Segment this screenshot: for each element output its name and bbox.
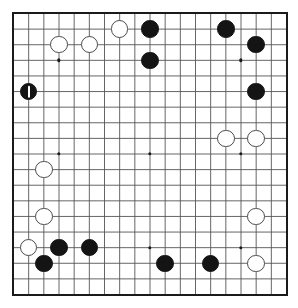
stone-black[interactable] [141,52,158,69]
stone-black[interactable] [217,20,234,37]
stone-layer[interactable] [12,12,288,296]
star-point [239,246,242,249]
stone-black[interactable] [156,255,173,272]
stone-white[interactable] [35,161,52,178]
star-point [57,152,60,155]
last-move-marker [28,85,30,98]
stone-white[interactable] [35,208,52,225]
stone-white[interactable] [111,20,128,37]
stone-white[interactable] [50,36,67,53]
stone-black[interactable] [202,255,219,272]
stone-black[interactable] [50,239,67,256]
stone-white[interactable] [81,36,98,53]
star-point [57,59,60,62]
stone-black[interactable] [141,20,158,37]
stone-black[interactable] [35,255,52,272]
stone-black[interactable] [247,83,264,100]
star-point [239,59,242,62]
go-board-container [0,0,298,308]
stone-black[interactable] [81,239,98,256]
stone-white[interactable] [247,130,264,147]
go-board[interactable] [12,12,288,296]
stone-black[interactable] [247,36,264,53]
star-point [148,152,151,155]
stone-white[interactable] [247,208,264,225]
stone-white[interactable] [217,130,234,147]
star-point [239,152,242,155]
star-point [148,246,151,249]
stone-white[interactable] [247,255,264,272]
stone-white[interactable] [20,239,37,256]
stone-black[interactable] [20,83,37,100]
